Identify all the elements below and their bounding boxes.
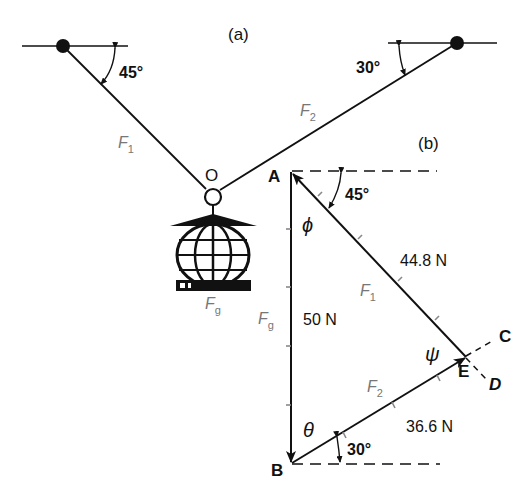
dashed-extension-ec xyxy=(466,340,494,356)
panel-b-label: (b) xyxy=(418,134,439,153)
angle-label-30-bottom: 30° xyxy=(347,441,371,458)
panel-b: (b) xyxy=(258,134,511,480)
force-label-f2-b: F2 xyxy=(367,378,383,399)
vector-f2-be xyxy=(292,358,465,463)
panel-a-label: (a) xyxy=(228,25,249,44)
force-label-f1-b: F1 xyxy=(360,282,376,303)
angle-arc-45-top xyxy=(329,173,341,208)
junction-label-o: O xyxy=(205,166,218,185)
point-label-e: E xyxy=(458,362,469,381)
rope-f2 xyxy=(220,43,457,190)
point-label-b: B xyxy=(271,461,283,480)
point-label-c: C xyxy=(499,327,511,346)
birdcage-icon xyxy=(170,214,257,291)
angle-arc-30-right xyxy=(399,46,405,75)
force-label-f2: F2 xyxy=(300,102,316,123)
force-label-f1: F1 xyxy=(118,134,134,155)
magnitude-f1: 44.8 N xyxy=(400,252,447,269)
angle-label-45-top: 45° xyxy=(345,186,369,203)
angle-phi: ϕ xyxy=(302,214,313,236)
ring xyxy=(205,189,221,205)
angle-label-45-left: 45° xyxy=(119,64,143,81)
weight-label-fg: Fg xyxy=(205,295,221,316)
angle-theta: θ xyxy=(303,419,314,441)
magnitude-f2: 36.6 N xyxy=(406,418,453,435)
angle-psi: ψ xyxy=(425,343,440,365)
magnitude-fg: 50 N xyxy=(303,311,337,328)
force-diagram: (a) 45° 30° F1 F2 O Fg (b) xyxy=(0,0,530,504)
angle-label-30-right: 30° xyxy=(356,59,380,76)
angle-arc-30-bottom xyxy=(337,437,340,462)
point-label-a: A xyxy=(268,167,280,186)
force-label-fg-b: Fg xyxy=(258,310,274,331)
point-label-d: D xyxy=(489,375,501,394)
angle-arc-45-left xyxy=(101,48,115,84)
